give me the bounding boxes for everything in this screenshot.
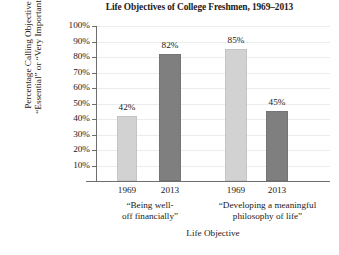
group-label-line-1: “Developing a meaningful [196,200,339,211]
y-axis-line [96,26,97,182]
y-axis-tick-label: 60% [52,83,90,92]
bar-value-label: 42% [105,103,149,112]
chart-title: Life Objectives of College Freshmen, 196… [60,2,339,12]
group-label-line-1: “Being well- [100,200,200,211]
bar [117,116,137,181]
x-axis-tick-label: 2013 [253,186,301,195]
y-axis-tick-label: 80% [52,52,90,61]
group-label-line-2: philosophy of life” [196,211,339,222]
x-axis-line [86,181,330,182]
bar [225,49,247,181]
bar-value-label: 82% [147,41,193,50]
y-axis-tick-label: 70% [52,68,90,77]
y-axis-title-secondary: “Essential” or “Very Important” [25,0,51,135]
bar-value-label: 45% [254,98,300,107]
y-axis-tick-label: 40% [52,114,90,123]
y-axis-tick-labels: 100%90%80%70%60%50%40%30%20%10% [50,0,90,255]
x-axis-group-label: “Developing a meaningfulphilosophy of li… [196,200,339,223]
y-axis-tick-label: 10% [52,161,90,170]
y-axis-title-line-2: “Essential” or “Very Important” [33,0,44,114]
bar [266,111,288,181]
x-axis-tick-label: 2013 [146,186,194,195]
gridline [96,73,330,74]
x-axis-title: Life Objective [96,228,330,238]
bar-value-label: 85% [213,36,259,45]
y-axis-tick-label: 50% [52,99,90,108]
y-axis-tick-label: 20% [52,145,90,154]
gridline [96,57,330,58]
y-axis-tick-label: 30% [52,130,90,139]
gridline [96,88,330,89]
x-axis-tick-label: 1969 [104,186,150,195]
y-axis-tick-label: 100% [52,21,90,30]
chart-figure: Life Objectives of College Freshmen, 196… [0,0,339,255]
y-axis-title-line-1: Percentage Calling Objective [23,1,34,109]
bar [159,54,181,181]
x-axis-group-label: “Being well-off financially” [100,200,200,223]
gridline [96,26,330,27]
y-axis-tick-label: 90% [52,37,90,46]
group-label-line-2: off financially” [100,211,200,222]
y-axis-title: Percentage Calling Objective [15,0,41,135]
